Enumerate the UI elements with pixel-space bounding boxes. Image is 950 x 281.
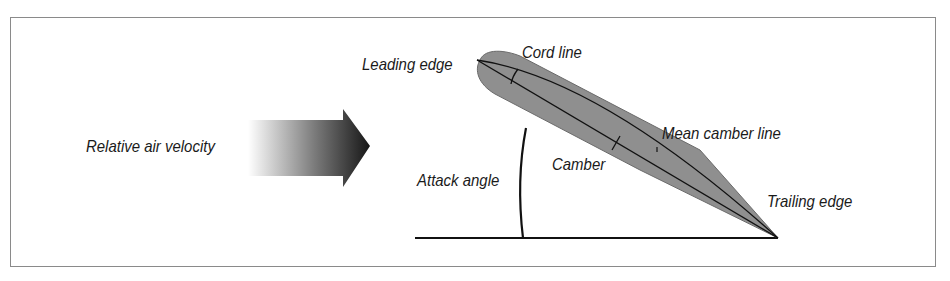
- label-mean-camber-line: Mean camber line: [662, 124, 781, 144]
- label-cord-line: Cord line: [522, 43, 582, 63]
- label-trailing-edge: Trailing edge: [767, 192, 852, 212]
- label-leading-edge: Leading edge: [362, 55, 453, 75]
- air-velocity-arrow-icon: [248, 109, 370, 187]
- label-relative-air-velocity: Relative air velocity: [86, 137, 215, 157]
- label-attack-angle: Attack angle: [417, 171, 499, 191]
- attack-angle-arc: [520, 128, 526, 238]
- label-camber: Camber: [552, 155, 605, 175]
